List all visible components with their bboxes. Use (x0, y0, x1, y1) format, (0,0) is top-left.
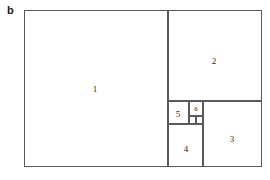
square-7 (189, 116, 196, 124)
square-4-label: 4 (184, 145, 189, 154)
square-6-label: 6 (194, 106, 198, 113)
square-1-label: 1 (93, 85, 98, 94)
square-2-label: 2 (212, 57, 217, 66)
square-8 (196, 116, 203, 124)
square-5-label: 5 (176, 110, 181, 119)
panel-label: b (7, 5, 14, 16)
square-3-label: 3 (230, 135, 235, 144)
figure-panel: b 1 2 3 4 5 6 (0, 0, 270, 180)
